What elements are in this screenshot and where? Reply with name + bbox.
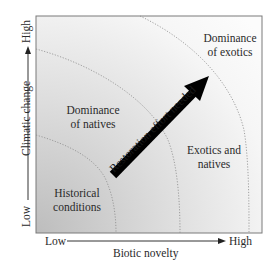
region-label-natives: Dominance of natives bbox=[55, 103, 131, 131]
region-label-exotics: Dominance of exotics bbox=[192, 31, 268, 59]
x-axis-low-label: Low bbox=[45, 235, 66, 248]
y-axis-title: Climatic change bbox=[20, 71, 33, 167]
region-label-mixed: Exotics and natives bbox=[174, 143, 254, 171]
y-axis-high-label: High bbox=[20, 16, 33, 48]
x-axis-title: Biotic novelty bbox=[113, 247, 178, 260]
x-axis-high-label: High bbox=[229, 235, 252, 248]
x-axis-arrow bbox=[67, 238, 226, 244]
diagram-canvas: Historical conditions Dominance of nativ… bbox=[0, 0, 275, 263]
region-label-historical: Historical conditions bbox=[44, 186, 110, 214]
y-axis-low-label: Low bbox=[20, 203, 33, 231]
